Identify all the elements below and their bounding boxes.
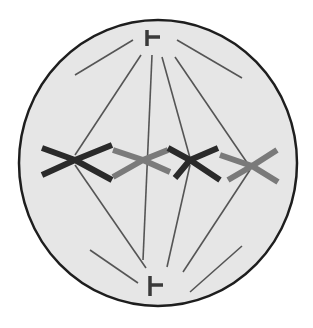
metaphase-diagram bbox=[0, 0, 313, 328]
cell-diagram bbox=[0, 0, 313, 328]
